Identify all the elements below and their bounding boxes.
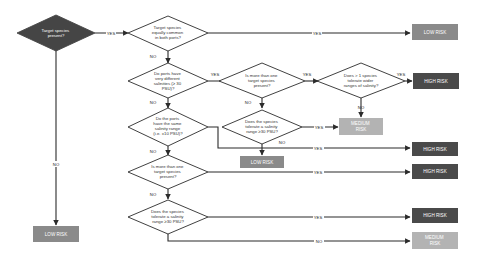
- label-d5-yes: YES: [397, 72, 406, 77]
- label-d7-yes: YES: [315, 125, 324, 130]
- label-d2-yes: YES: [313, 31, 322, 36]
- decision-equally-common: Target species equally common in both po…: [128, 16, 208, 51]
- decision-tolerate-salinity-b: Does the species tolerate a salinity ran…: [128, 200, 208, 234]
- label-d4-yes: YES: [303, 72, 312, 77]
- outcome-low-risk-top: LOW RISK: [412, 24, 458, 40]
- svg-text:HIGH RISK: HIGH RISK: [423, 213, 447, 218]
- edge-labels: YES NO YES NO YES NO YES NO YES NO YES N…: [51, 30, 405, 244]
- outcome-high-risk-3: HIGH RISK: [412, 164, 458, 179]
- label-d7-no: NO: [279, 140, 286, 145]
- label-d3-no: NO: [150, 100, 157, 105]
- svg-text:HIGH RISK: HIGH RISK: [424, 79, 448, 84]
- outcome-high-risk-2: HIGH RISK: [412, 142, 458, 156]
- label-d1-no: NO: [53, 162, 60, 167]
- label-d5-no: NO: [358, 105, 365, 110]
- label-d6-yes: YES: [314, 146, 323, 151]
- decision-more-than-one-species-b: Is more than one target species present?: [128, 155, 208, 189]
- decision-target-species-present: Target species present?: [17, 15, 95, 51]
- label-d4-no: NO: [245, 100, 252, 105]
- decision-text: Does the species tolerate a salinity ran…: [151, 209, 185, 224]
- label-d9-no: NO: [316, 239, 323, 244]
- decision-text: Do the ports have the same salinity rang…: [153, 116, 183, 136]
- label-d3-yes: YES: [211, 72, 220, 77]
- outcome-medium-risk-1: MEDIUM RISK: [339, 118, 383, 135]
- svg-text:LOW RISK: LOW RISK: [45, 232, 68, 237]
- edge-d9-medium: [168, 234, 410, 241]
- label-d8-no: NO: [150, 192, 157, 197]
- decision-tolerate-salinity-a: Does the species tolerate a salinity ran…: [222, 110, 302, 144]
- decision-more-than-one-species-a: Is more than one target species present?: [219, 63, 305, 98]
- outcome-high-risk-1: HIGH RISK: [413, 73, 459, 89]
- label-d9-yes: YES: [314, 215, 323, 220]
- svg-text:LOW RISK: LOW RISK: [251, 160, 274, 165]
- svg-text:HIGH RISK: HIGH RISK: [423, 147, 447, 152]
- label-d6-no: NO: [150, 149, 157, 154]
- decision-text: Does > 1 species tolerate wider ranges o…: [344, 73, 379, 88]
- outcome-high-risk-4: HIGH RISK: [412, 208, 458, 223]
- outcome-low-risk-left: LOW RISK: [33, 226, 79, 242]
- decision-text: Target species equally common in both po…: [152, 25, 185, 40]
- decision-wider-salinity-ranges: Does > 1 species tolerate wider ranges o…: [317, 63, 405, 98]
- label-d8-yes: YES: [314, 170, 323, 175]
- svg-text:LOW RISK: LOW RISK: [424, 30, 447, 35]
- risk-assessment-flowchart: YES NO YES NO YES NO YES NO YES NO YES N…: [0, 0, 477, 265]
- svg-text:HIGH RISK: HIGH RISK: [423, 169, 447, 174]
- decision-same-salinity-range: Do the ports have the same salinity rang…: [128, 108, 208, 146]
- decision-text: Does the species tolerate a salinity ran…: [245, 119, 279, 134]
- outcome-low-risk-mid: LOW RISK: [240, 156, 284, 168]
- label-d2-no: NO: [150, 54, 157, 59]
- label-d1-yes: YES: [107, 31, 116, 36]
- outcome-medium-risk-2: MEDIUM RISK: [412, 232, 458, 249]
- decision-different-salinities: Do ports have very different salinities …: [128, 63, 208, 98]
